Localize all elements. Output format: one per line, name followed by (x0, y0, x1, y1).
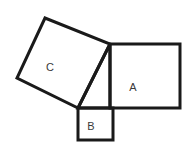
geometry-canvas: C A B (0, 0, 191, 151)
square-b-label: B (87, 120, 94, 132)
square-b-fill (78, 108, 113, 140)
square-a-fill (110, 44, 180, 108)
square-c-fill (17, 18, 110, 108)
pythagorean-diagram: C A B (0, 0, 191, 151)
square-a-label: A (129, 81, 137, 93)
square-c-label: C (46, 61, 54, 73)
